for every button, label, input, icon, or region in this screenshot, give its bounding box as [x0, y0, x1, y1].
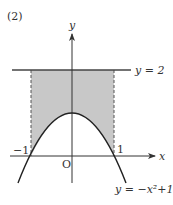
origin-label: O: [62, 158, 71, 171]
tick-neg-one: −1: [13, 144, 29, 157]
problem-label: (2): [7, 10, 23, 23]
tick-pos-one: 1: [117, 143, 124, 156]
line-label: y = 2: [134, 64, 164, 77]
x-axis-label: x: [159, 150, 166, 163]
parabola-label: y = −x²+1: [114, 183, 173, 196]
y-axis-label: y: [68, 19, 76, 32]
graph: (2) y x O −1 1 y = 2 y = −x²+1: [0, 0, 173, 205]
